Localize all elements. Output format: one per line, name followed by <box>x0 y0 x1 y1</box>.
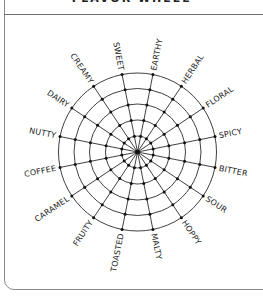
intersection-dot <box>145 103 148 106</box>
intersection-dot <box>74 138 77 141</box>
intersection-dot <box>70 194 73 197</box>
intersection-dot <box>149 142 152 145</box>
intersection-dot <box>142 182 145 185</box>
intersection-dot <box>130 119 133 122</box>
intersection-dot <box>145 137 148 140</box>
intersection-dot <box>163 190 166 193</box>
intersection-dot <box>151 228 154 231</box>
intersection-dot <box>154 177 157 180</box>
intersection-dot <box>96 124 99 127</box>
intersection-dot <box>198 138 201 141</box>
intersection-dot <box>118 124 121 127</box>
intersection-dot <box>70 107 73 110</box>
intersection-dot <box>92 216 95 219</box>
intersection-dot <box>127 137 130 140</box>
intersection-dot <box>109 190 112 193</box>
intersection-dot <box>123 142 126 145</box>
label-sweet: SWEET <box>111 41 125 71</box>
intersection-dot <box>133 166 136 169</box>
intersection-dot <box>92 85 95 88</box>
intersection-dot <box>74 163 77 166</box>
label-herbal: HERBAL <box>180 53 206 86</box>
intersection-dot <box>167 144 170 147</box>
label-dairy: DAIRY <box>45 88 71 109</box>
intersection-dot <box>180 216 183 219</box>
intersection-dot <box>101 203 104 206</box>
intersection-dot <box>171 203 174 206</box>
intersection-dot <box>145 198 148 201</box>
intersection-dot <box>96 177 99 180</box>
label-floral: FLORAL <box>204 84 235 109</box>
intersection-dot <box>127 198 130 201</box>
wheel-hub <box>135 150 140 155</box>
label-nutty: NUTTY <box>28 126 57 140</box>
intersection-dot <box>83 186 86 189</box>
intersection-dot <box>123 159 126 162</box>
intersection-dot <box>109 168 112 171</box>
intersection-dot <box>154 124 157 127</box>
intersection-dot <box>139 135 142 138</box>
intersection-dot <box>183 160 186 163</box>
intersection-dot <box>121 228 124 231</box>
intersection-dot <box>213 135 216 138</box>
intersection-dot <box>83 115 86 118</box>
intersection-dot <box>148 213 151 216</box>
intersection-dot <box>127 164 130 167</box>
label-earthy: EARTHY <box>149 38 164 72</box>
intersection-dot <box>180 85 183 88</box>
intersection-dot <box>59 166 62 169</box>
flavor-wheel-diagram: EARTHYHERBALFLORALSPICYBITTERSOURHOPPYMA… <box>0 0 263 297</box>
intersection-dot <box>148 88 151 91</box>
label-caramel: CARAMEL <box>33 194 71 224</box>
intersection-dot <box>127 103 130 106</box>
intersection-dot <box>89 160 92 163</box>
label-toasted: TOASTED <box>109 233 126 274</box>
intersection-dot <box>198 163 201 166</box>
intersection-dot <box>142 119 145 122</box>
intersection-dot <box>176 177 179 180</box>
label-sour: SOUR <box>204 194 229 215</box>
intersection-dot <box>213 166 216 169</box>
intersection-dot <box>130 182 133 185</box>
intersection-dot <box>167 157 170 160</box>
label-spicy: SPICY <box>218 127 243 140</box>
label-coffee: COFFEE <box>23 164 57 179</box>
label-fruity: FRUITY <box>71 219 95 248</box>
intersection-dot <box>101 98 104 101</box>
label-hoppy: HOPPY <box>180 219 203 247</box>
intersection-dot <box>109 133 112 136</box>
intersection-dot <box>163 111 166 114</box>
intersection-dot <box>152 154 155 157</box>
label-malty: MALTY <box>149 233 163 261</box>
intersection-dot <box>151 73 154 76</box>
label-creamy: CREAMY <box>68 52 95 86</box>
intersection-dot <box>149 159 152 162</box>
label-bitter: BITTER <box>218 164 249 179</box>
intersection-dot <box>105 144 108 147</box>
intersection-dot <box>176 124 179 127</box>
intersection-dot <box>202 107 205 110</box>
intersection-dot <box>145 164 148 167</box>
intersection-dot <box>120 147 123 150</box>
intersection-dot <box>171 98 174 101</box>
intersection-dot <box>121 73 124 76</box>
intersection-dot <box>133 135 136 138</box>
intersection-dot <box>202 194 205 197</box>
intersection-dot <box>139 166 142 169</box>
intersection-dot <box>124 213 127 216</box>
intersection-dot <box>163 168 166 171</box>
intersection-dot <box>109 111 112 114</box>
intersection-dot <box>105 157 108 160</box>
intersection-dot <box>189 115 192 118</box>
intersection-dot <box>120 154 123 157</box>
intersection-dot <box>89 141 92 144</box>
intersection-dot <box>152 147 155 150</box>
intersection-dot <box>189 186 192 189</box>
intersection-dot <box>183 141 186 144</box>
intersection-dot <box>163 133 166 136</box>
intersection-dot <box>59 135 62 138</box>
intersection-dot <box>124 88 127 91</box>
intersection-dot <box>118 177 121 180</box>
